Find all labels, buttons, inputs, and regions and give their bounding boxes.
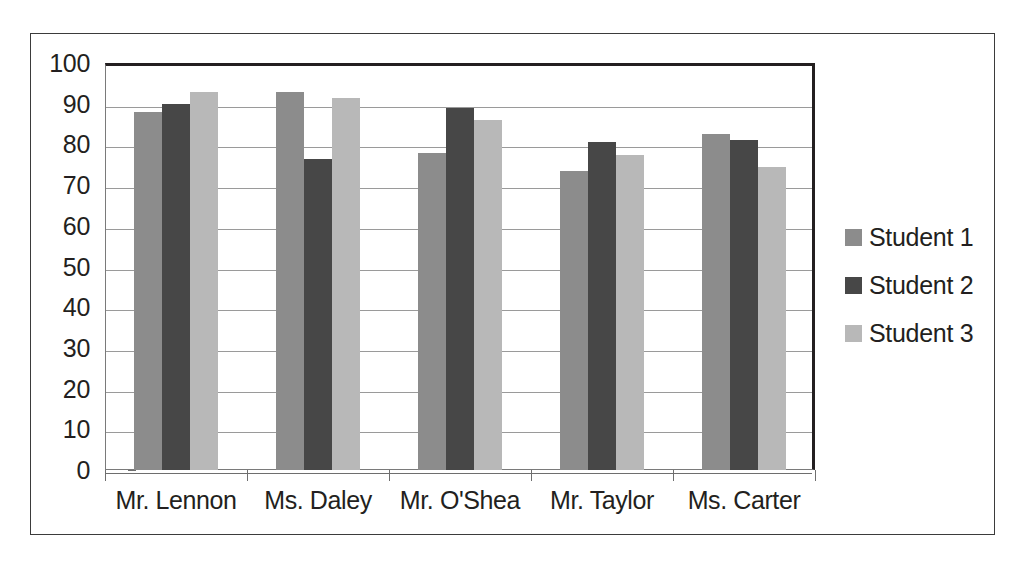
bar[interactable] [730, 140, 758, 470]
legend-item[interactable]: Student 2 [845, 261, 995, 309]
bar[interactable] [474, 120, 502, 470]
x-tick-mark [673, 470, 674, 481]
bar[interactable] [332, 98, 360, 470]
legend-label: Student 3 [869, 321, 973, 346]
x-tick-label: Ms. Carter [688, 488, 801, 513]
y-tick-label: 20 [63, 376, 90, 401]
legend-swatch-icon [845, 277, 862, 294]
y-tick-label: 90 [63, 91, 90, 116]
bar[interactable] [560, 171, 588, 470]
x-tick-mark [815, 470, 816, 481]
bar-chart-figure: 1009080706050403020100 Mr. LennonMs. Dal… [0, 0, 1023, 565]
bar[interactable] [702, 134, 730, 470]
legend-label: Student 1 [869, 225, 973, 250]
legend-label: Student 2 [869, 273, 973, 298]
x-tick-mark [389, 470, 390, 481]
x-tick-mark [247, 470, 248, 481]
y-tick-label: 50 [63, 254, 90, 279]
x-tick-mark [531, 470, 532, 481]
bar-group [673, 63, 815, 470]
bar[interactable] [588, 142, 616, 470]
bar-group [389, 63, 531, 470]
x-axis: Mr. LennonMs. DaleyMr. O'SheaMr. TaylorM… [105, 470, 815, 530]
bar-group [105, 63, 247, 470]
x-tick-label: Mr. Lennon [115, 488, 236, 513]
y-tick-label: 40 [63, 295, 90, 320]
legend-swatch-icon [845, 325, 862, 342]
legend-item[interactable]: Student 1 [845, 213, 995, 261]
y-tick-label: 10 [63, 417, 90, 442]
y-axis: 1009080706050403020100 [30, 63, 98, 470]
bar[interactable] [134, 112, 162, 470]
bar[interactable] [276, 92, 304, 471]
bar[interactable] [190, 92, 218, 471]
bars-layer [105, 63, 815, 470]
x-tick-label: Mr. Taylor [550, 488, 654, 513]
x-tick-label: Mr. O'Shea [400, 488, 520, 513]
y-tick-label: 0 [76, 458, 90, 483]
bar-group [531, 63, 673, 470]
bar[interactable] [418, 153, 446, 470]
y-tick-label: 80 [63, 132, 90, 157]
legend-item[interactable]: Student 3 [845, 309, 995, 357]
bar[interactable] [446, 108, 474, 470]
bar[interactable] [758, 167, 786, 470]
x-tick-label: Ms. Daley [264, 488, 372, 513]
y-tick-label: 30 [63, 335, 90, 360]
x-tick-mark [105, 470, 106, 481]
bar[interactable] [162, 104, 190, 470]
legend-swatch-icon [845, 229, 862, 246]
y-tick-label: 100 [49, 51, 90, 76]
bar[interactable] [616, 155, 644, 470]
y-tick-label: 60 [63, 213, 90, 238]
bar-group [247, 63, 389, 470]
bar[interactable] [304, 159, 332, 470]
chart-legend: Student 1Student 2Student 3 [845, 213, 995, 357]
y-tick-label: 70 [63, 173, 90, 198]
